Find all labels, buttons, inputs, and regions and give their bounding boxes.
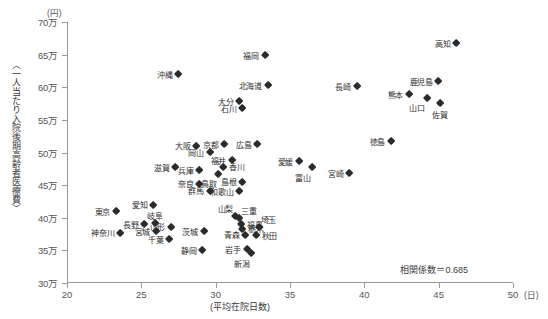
data-point-label: 岡山 (188, 147, 203, 158)
x-tick-label: 30 (210, 289, 221, 300)
diamond-marker-icon (436, 99, 445, 108)
diamond-marker-icon (220, 140, 229, 149)
x-tick-label: 40 (359, 289, 370, 300)
diamond-marker-icon (238, 177, 247, 186)
diamond-marker-icon (260, 51, 269, 60)
diamond-marker-icon (452, 39, 461, 48)
data-point-label: 群馬 (188, 185, 203, 196)
y-tick (62, 120, 67, 121)
data-point-label: 宮崎 (328, 168, 343, 179)
data-point-label: 福岡 (243, 50, 258, 61)
data-point-label: 岐阜 (147, 210, 162, 221)
data-point-label: 広島 (236, 139, 251, 150)
y-tick-label: 60万 (38, 80, 58, 94)
diamond-marker-icon (235, 187, 244, 196)
y-tick (62, 250, 67, 251)
x-axis-title: (平均在院日数) (210, 300, 270, 313)
data-point-label: 東京 (95, 206, 110, 217)
data-point-label: 岩手 (225, 244, 240, 255)
y-tick-label: 55万 (38, 113, 58, 127)
diamond-marker-icon (195, 166, 204, 175)
y-tick (62, 55, 67, 56)
data-point-label: 徳島 (370, 136, 385, 147)
diamond-marker-icon (149, 200, 158, 209)
plot-area: 30万35万40万45万50万55万60万65万70万 202530354045… (67, 22, 513, 283)
x-tick-label: 50 (508, 289, 519, 300)
y-tick-label: 70万 (38, 15, 58, 29)
data-point-label: 愛媛 (278, 156, 293, 167)
y-tick (62, 218, 67, 219)
diamond-marker-icon (263, 81, 272, 90)
x-tick (141, 283, 142, 288)
y-tick-label: 40万 (38, 211, 58, 225)
data-point-label: 佐賀 (432, 109, 447, 120)
x-tick-label: 20 (62, 289, 73, 300)
data-point-label: 千葉 (148, 234, 163, 245)
y-axis-title: 〈一人当たり入院後期高齢者医療費〉 (8, 60, 24, 250)
diamond-marker-icon (199, 227, 208, 236)
x-tick-label: 25 (136, 289, 147, 300)
diamond-marker-icon (165, 235, 174, 244)
x-tick (290, 283, 291, 288)
diamond-marker-icon (404, 90, 413, 99)
data-point-label: 滋賀 (154, 162, 169, 173)
x-tick-label: 35 (285, 289, 296, 300)
y-tick-label: 35万 (38, 243, 58, 257)
data-point-label: 三重 (241, 205, 256, 216)
diamond-marker-icon (167, 222, 176, 231)
y-tick (62, 153, 67, 154)
data-point-label: 石川 (221, 103, 236, 114)
y-tick (62, 185, 67, 186)
data-point-label: 静岡 (181, 245, 196, 256)
y-tick-label: 50万 (38, 146, 58, 160)
chart-canvas: (円) (日) 〈一人当たり入院後期高齢者医療費〉 (平均在院日数) 30万35… (0, 0, 548, 319)
x-tick (439, 283, 440, 288)
data-point-label: 新潟 (234, 258, 249, 269)
data-point-label: 愛知 (132, 199, 147, 210)
data-point-label: 兵庫 (178, 165, 193, 176)
diamond-marker-icon (352, 82, 361, 91)
data-point-label: 沖縄 (157, 69, 172, 80)
correlation-annotation: 相関係数＝0.685 (400, 263, 468, 276)
diamond-marker-icon (253, 140, 262, 149)
x-tick (67, 283, 68, 288)
data-point-label: 北海道 (239, 80, 262, 91)
data-point-label: 富山 (295, 172, 310, 183)
x-tick (216, 283, 217, 288)
data-point-label: 和歌山 (210, 186, 233, 197)
diamond-marker-icon (434, 77, 443, 86)
x-tick (513, 283, 514, 288)
data-point-label: 茨城 (182, 226, 197, 237)
data-point-label: 青森 (224, 229, 239, 240)
x-tick (364, 283, 365, 288)
data-point-label: 秋田 (262, 230, 277, 241)
diamond-marker-icon (387, 137, 396, 146)
diamond-marker-icon (174, 70, 183, 79)
diamond-marker-icon (345, 169, 354, 178)
data-point-label: 長崎 (335, 81, 350, 92)
data-point-label: 山梨 (218, 203, 233, 214)
data-point-label: 熊本 (388, 89, 403, 100)
diamond-marker-icon (238, 104, 247, 113)
y-axis-line (67, 22, 68, 283)
x-axis-unit-label: (日) (524, 288, 539, 300)
data-point-label: 鹿児島 (410, 76, 433, 87)
data-point-label: 山口 (409, 102, 424, 113)
diamond-marker-icon (112, 207, 121, 216)
y-tick (62, 22, 67, 23)
data-point-label: 香川 (229, 161, 244, 172)
y-tick-label: 30万 (38, 276, 58, 290)
data-point-label: 高知 (435, 38, 450, 49)
y-tick-label: 45万 (38, 178, 58, 192)
y-tick-label: 65万 (38, 48, 58, 62)
x-tick-label: 45 (433, 289, 444, 300)
diamond-marker-icon (198, 246, 207, 255)
diamond-marker-icon (294, 157, 303, 166)
data-point-label: 神奈川 (91, 227, 114, 238)
y-tick (62, 87, 67, 88)
